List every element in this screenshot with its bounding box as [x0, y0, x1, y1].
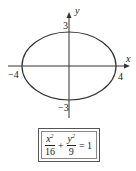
fraction-x: x2 16 — [45, 133, 55, 156]
tick-label-y-neg: −3 — [58, 103, 69, 113]
equation: x2 16 + y2 9 = 1 — [41, 131, 97, 159]
y-axis-arrow-icon — [67, 12, 72, 18]
y-axis-label: y — [75, 6, 79, 16]
x-axis-arrow-icon — [124, 64, 130, 69]
plus-sign: + — [58, 140, 64, 151]
tick-label-y-pos: 3 — [63, 21, 68, 31]
fraction-y: y2 9 — [67, 133, 76, 156]
equation-rhs: = 1 — [79, 140, 92, 151]
tick-label-x-pos: 4 — [118, 72, 123, 82]
tick-label-x-neg: −4 — [8, 70, 19, 80]
equation-box: x2 16 + y2 9 = 1 — [38, 128, 100, 162]
x-axis-label: x — [126, 54, 130, 64]
